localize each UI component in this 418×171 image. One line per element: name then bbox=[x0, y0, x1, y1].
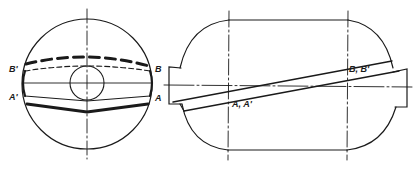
label-a-a-prime: A, A' bbox=[231, 99, 253, 109]
label-b-b-prime: B, B' bbox=[349, 64, 370, 74]
label-b: B bbox=[155, 64, 162, 74]
end-view-left-band-edge bbox=[23, 71, 25, 96]
end-view bbox=[22, 9, 152, 159]
end-view-thick-solid-line bbox=[27, 104, 148, 112]
side-view bbox=[164, 11, 412, 160]
side-view-right-tangent-line bbox=[347, 11, 348, 160]
drawing-canvas: B' B A' A A, A' B, B' bbox=[0, 0, 418, 171]
label-b-prime: B' bbox=[9, 64, 18, 74]
end-view-right-band-edge bbox=[150, 71, 152, 96]
side-view-right-head bbox=[347, 20, 396, 150]
side-view-axis bbox=[164, 85, 412, 87]
label-a-prime: A' bbox=[8, 92, 18, 102]
label-a: A bbox=[154, 93, 162, 103]
side-view-right-nozzle bbox=[393, 69, 407, 107]
side-view-band-lower-edge bbox=[184, 71, 399, 111]
end-view-thick-dashed-arc bbox=[26, 57, 149, 66]
vessel-drawing: B' B A' A A, A' B, B' bbox=[0, 0, 418, 171]
end-view-thin-dashed-arc bbox=[25, 66, 150, 71]
